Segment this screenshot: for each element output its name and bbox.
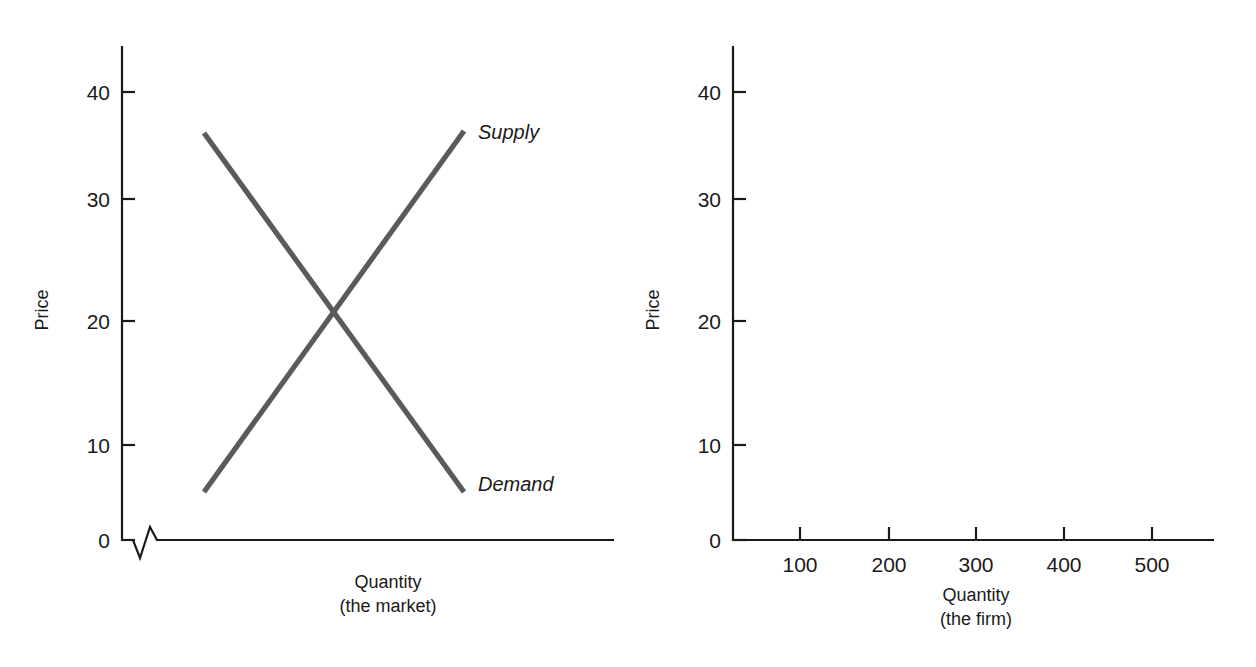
market-ytick-label-0: 0 bbox=[98, 529, 110, 552]
firm-ytick-label-10: 10 bbox=[698, 434, 721, 457]
market-ytick-label-20: 20 bbox=[87, 310, 110, 333]
firm-ytick-label-40: 40 bbox=[698, 81, 721, 104]
firm-xtick-label-400: 400 bbox=[1046, 553, 1081, 576]
panel-market: 0 10 20 30 40 Price Supply Demand Quanti… bbox=[0, 0, 628, 667]
firm-ytick-label-30: 30 bbox=[698, 188, 721, 211]
market-y-axis-title: Price bbox=[32, 289, 52, 330]
panel-firm: 0 10 20 30 40 Price 100 200 300 400 500 … bbox=[628, 0, 1256, 667]
firm-x-axis-title-line1: Quantity bbox=[942, 585, 1009, 605]
figure-root: 0 10 20 30 40 Price Supply Demand Quanti… bbox=[0, 0, 1256, 667]
firm-ytick-label-20: 20 bbox=[698, 310, 721, 333]
market-x-axis-break-zigzag-icon bbox=[122, 527, 157, 558]
market-ytick-label-40: 40 bbox=[87, 81, 110, 104]
firm-xtick-label-300: 300 bbox=[958, 553, 993, 576]
firm-y-axis-title: Price bbox=[643, 289, 663, 330]
firm-xtick-label-100: 100 bbox=[782, 553, 817, 576]
firm-xtick-label-200: 200 bbox=[871, 553, 906, 576]
market-ytick-label-30: 30 bbox=[87, 188, 110, 211]
firm-ytick-label-0: 0 bbox=[709, 529, 721, 552]
market-x-axis-title-line1: Quantity bbox=[354, 572, 421, 592]
market-x-axis-title-line2: (the market) bbox=[339, 596, 436, 616]
market-ytick-label-10: 10 bbox=[87, 434, 110, 457]
market-supply-label: Supply bbox=[478, 121, 540, 143]
firm-x-axis-title-line2: (the firm) bbox=[940, 609, 1012, 629]
market-demand-label: Demand bbox=[478, 473, 554, 495]
firm-xtick-label-500: 500 bbox=[1134, 553, 1169, 576]
